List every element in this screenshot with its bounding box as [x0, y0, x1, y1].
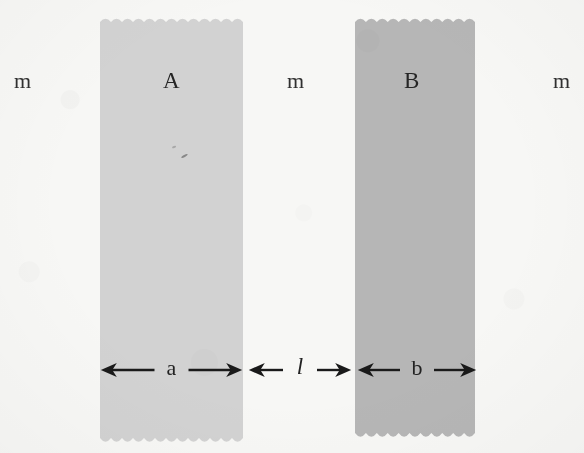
figure-canvas: m m m A B a l b: [0, 0, 584, 453]
mass-label-right: m: [553, 70, 570, 92]
dimension-label-l: l: [297, 355, 303, 378]
mass-label-middle: m: [287, 70, 304, 92]
dimension-label-a: a: [167, 357, 177, 379]
slab-label-b: B: [404, 69, 419, 92]
mass-label-left: m: [14, 70, 31, 92]
dimension-label-b: b: [412, 357, 423, 379]
slab-label-a: A: [163, 69, 180, 92]
